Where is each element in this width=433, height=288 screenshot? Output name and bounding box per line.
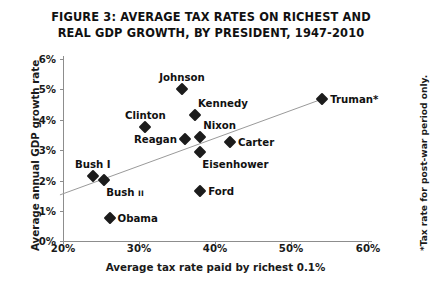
x-tick-label-50: 50%	[279, 243, 303, 254]
x-axis-title: Average tax rate paid by richest 0.1%	[63, 261, 368, 273]
y-axis-tick	[60, 120, 63, 121]
x-tick-label-60: 60%	[356, 243, 380, 254]
data-point-label: Bush I	[75, 158, 111, 169]
data-point-label: Eisenhower	[202, 158, 268, 169]
data-point-label: Carter	[238, 136, 274, 147]
data-point-marker	[139, 121, 152, 134]
y-tick-label-1: 1%	[39, 206, 56, 217]
y-tick-label-5: 5%	[39, 84, 56, 95]
y-axis-line	[63, 56, 64, 244]
y-axis-tick	[60, 241, 63, 242]
data-point-marker	[189, 108, 202, 121]
data-point-label: Reagan	[134, 133, 177, 144]
data-point-marker	[98, 173, 111, 186]
y-axis-tick	[60, 59, 63, 60]
data-point-marker	[194, 185, 207, 198]
y-axis-title: Average annual GDP growth rate	[29, 61, 41, 251]
data-point-label: Clinton	[125, 109, 166, 120]
y-axis-tick	[60, 150, 63, 151]
x-axis-line	[60, 241, 372, 242]
data-point-marker	[194, 131, 207, 144]
data-point-marker	[316, 93, 329, 106]
data-point-label: Bush II	[106, 186, 144, 197]
data-point-marker	[103, 212, 116, 225]
y-tick-label-6: 6%	[39, 54, 56, 65]
data-point-label: Ford	[208, 185, 234, 196]
y-axis-tick	[60, 181, 63, 182]
y-tick-label-0: 0%	[39, 236, 56, 247]
data-point-label: Nixon	[203, 119, 236, 130]
data-point-marker	[176, 82, 189, 95]
y-tick-label-3: 3%	[39, 145, 56, 156]
y-tick-label-4: 4%	[39, 115, 56, 126]
data-point-label: Kennedy	[198, 97, 248, 108]
footnote-text: *Tax rate for post-war period only.	[419, 68, 429, 258]
title-line-2: REAL GDP GROWTH, BY PRESIDENT, 1947-2010	[26, 26, 396, 42]
data-point-marker	[179, 132, 192, 145]
page-title: FIGURE 3: AVERAGE TAX RATES ON RICHEST A…	[26, 10, 396, 41]
data-point-marker	[194, 145, 207, 158]
title-line-1: FIGURE 3: AVERAGE TAX RATES ON RICHEST A…	[26, 10, 396, 26]
y-axis-tick	[60, 211, 63, 212]
data-point-label: Johnson	[159, 71, 205, 82]
y-axis-tick	[60, 89, 63, 90]
data-point-marker	[224, 135, 237, 148]
x-tick-label-40: 40%	[203, 243, 227, 254]
x-tick-label-30: 30%	[127, 243, 151, 254]
y-tick-label-2: 2%	[39, 176, 56, 187]
data-point-label: Truman*	[330, 94, 378, 105]
data-point-label: Obama	[118, 212, 158, 223]
figure-container: FIGURE 3: AVERAGE TAX RATES ON RICHEST A…	[0, 0, 433, 288]
